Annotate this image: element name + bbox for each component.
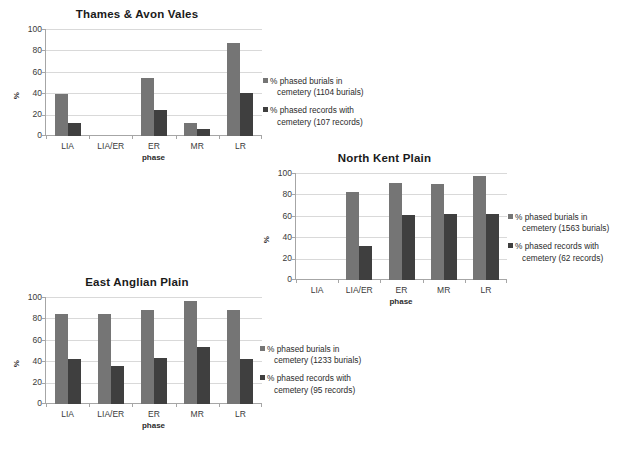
- x-tick-label: LIA: [46, 404, 89, 419]
- x-tick-label: MR: [176, 136, 219, 151]
- x-tick-label: LR: [219, 404, 262, 419]
- bar-group: [219, 29, 262, 136]
- legend-item: % phased records with cemetery (107 reco…: [263, 105, 388, 127]
- bar-series2: [68, 123, 81, 136]
- bar-series2: [197, 129, 210, 137]
- y-axis-label: %: [262, 236, 271, 243]
- x-tick-label: LIA/ER: [338, 280, 380, 295]
- legend-label-line1: % phased records with: [267, 373, 355, 384]
- y-axis-label: %: [12, 92, 21, 99]
- x-tick-label: LR: [219, 136, 262, 151]
- legend-label-line2: cemetery (1104 burials): [270, 87, 364, 98]
- bar-group: [176, 29, 219, 136]
- legend-item: % phased records with cemetery (95 recor…: [260, 373, 385, 395]
- bar-series1: [346, 192, 359, 280]
- bar-series2: [154, 110, 167, 136]
- legend-label-line1: % phased burials in: [515, 212, 609, 223]
- bar-group: [465, 173, 507, 280]
- legend-label-line1: % phased records with: [515, 241, 603, 252]
- legend-swatch-icon: [263, 78, 268, 83]
- bar-group: [46, 29, 89, 136]
- bar-group: [176, 297, 219, 404]
- y-axis-ticks: 100 80 60 40 20 0: [273, 173, 295, 280]
- chart-thames-avon-vales: Thames & Avon Vales % 100 80 60 40 20 0: [12, 8, 262, 162]
- bar-series1: [227, 310, 240, 404]
- bar-series2: [240, 359, 253, 404]
- legend-swatch-icon: [260, 346, 265, 351]
- x-axis-labels: LIA LIA/ER ER MR LR: [46, 404, 262, 419]
- legend-item: % phased burials in cemetery (1233 buria…: [260, 344, 385, 366]
- bar-series1: [184, 123, 197, 136]
- bar-series2: [154, 358, 167, 404]
- legend-label-line2: cemetery (95 records): [267, 385, 355, 396]
- legend-label-line2: cemetery (62 records): [515, 253, 603, 264]
- bar-series1: [431, 184, 444, 280]
- bar-group: [219, 297, 262, 404]
- bar-series2: [402, 215, 415, 280]
- chart-east-anglian-plain: East Anglian Plain % 100 80 60 40 20 0: [12, 276, 262, 430]
- bar-series1: [55, 314, 68, 404]
- x-tick-label: LIA/ER: [89, 136, 132, 151]
- legend-label-line2: cemetery (107 records): [270, 117, 363, 128]
- bar-group: [132, 297, 175, 404]
- x-tick-label: ER: [132, 404, 175, 419]
- bar-series1: [141, 310, 154, 404]
- legend-item: % phased burials in cemetery (1104 buria…: [263, 76, 388, 98]
- bar-series2: [197, 347, 210, 404]
- legend-label-line2: cemetery (1233 burials): [267, 355, 361, 366]
- bar-series1: [184, 301, 197, 404]
- chart-title: Thames & Avon Vales: [12, 8, 262, 20]
- legend-item: % phased records with cemetery (62 recor…: [508, 241, 633, 263]
- bar-series2: [359, 246, 372, 280]
- bar-series2: [68, 359, 81, 404]
- bar-series1: [389, 183, 402, 280]
- legend-north-kent-plain: % phased burials in cemetery (1563 buria…: [508, 212, 633, 271]
- x-tick-label: LIA: [46, 136, 89, 151]
- legend-swatch-icon: [508, 243, 513, 248]
- x-tick-label: MR: [423, 280, 465, 295]
- x-axis-label: phase: [45, 419, 262, 430]
- bar-group: [423, 173, 465, 280]
- x-tick-label: ER: [380, 280, 422, 295]
- legend-east-anglian-plain: % phased burials in cemetery (1233 buria…: [260, 344, 385, 403]
- plot-area: [295, 173, 507, 280]
- bar-group: [338, 173, 380, 280]
- bar-series1: [227, 43, 240, 136]
- x-tick-label: MR: [176, 404, 219, 419]
- bar-group: [46, 297, 89, 404]
- legend-swatch-icon: [508, 214, 513, 219]
- x-tick-label: LR: [465, 280, 507, 295]
- bar-series1: [473, 176, 486, 280]
- chart-title: East Anglian Plain: [12, 276, 262, 288]
- x-axis-label: phase: [45, 151, 262, 162]
- bar-group: [89, 297, 132, 404]
- plot-area: [45, 297, 262, 404]
- legend-swatch-icon: [260, 375, 265, 380]
- bar-group: [296, 173, 338, 280]
- bar-series1: [98, 314, 111, 404]
- legend-label-line1: % phased burials in: [270, 76, 364, 87]
- x-axis-label: phase: [295, 295, 507, 306]
- x-axis-labels: LIA LIA/ER ER MR LR: [296, 280, 507, 295]
- bar-series2: [486, 214, 499, 280]
- x-tick-label: ER: [132, 136, 175, 151]
- x-tick-label: LIA/ER: [89, 404, 132, 419]
- bar-group: [89, 29, 132, 136]
- y-axis-ticks: 100 80 60 40 20 0: [23, 297, 45, 404]
- chart-title: North Kent Plain: [262, 152, 507, 164]
- chart-north-kent-plain: North Kent Plain % 100 80 60 40 20 0: [262, 152, 507, 306]
- legend-label-line1: % phased burials in: [267, 344, 361, 355]
- legend-swatch-icon: [263, 107, 268, 112]
- bar-series1: [55, 94, 68, 136]
- legend-label-line2: cemetery (1563 burials): [515, 223, 609, 234]
- bar-series1: [141, 78, 154, 136]
- bar-group: [132, 29, 175, 136]
- bar-series2: [444, 214, 457, 280]
- bar-series2: [240, 93, 253, 136]
- x-axis-labels: LIA LIA/ER ER MR LR: [46, 136, 262, 151]
- legend-thames-avon-vales: % phased burials in cemetery (1104 buria…: [263, 76, 388, 135]
- y-axis-label: %: [12, 360, 21, 367]
- legend-item: % phased burials in cemetery (1563 buria…: [508, 212, 633, 234]
- plot-area: [45, 29, 262, 136]
- bar-series2: [111, 366, 124, 405]
